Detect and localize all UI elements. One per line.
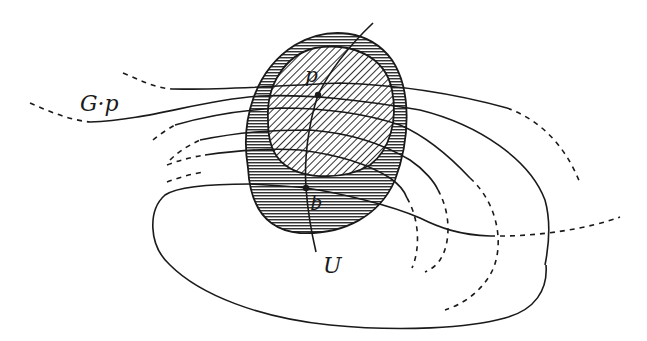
dash-orbit-1-left (123, 73, 172, 89)
label-orbit-gp: G·p (80, 91, 119, 116)
dash-orbit-loop-left (167, 172, 205, 182)
orbit-diagram: G·p p q U (0, 0, 647, 341)
label-q: q (310, 194, 323, 218)
dash-orbit-4-right (425, 190, 448, 272)
dash-orbit-1-right (507, 108, 580, 183)
dash-orbit-3-right (445, 178, 498, 310)
dash-orbit-3-left (153, 125, 175, 140)
label-u: U (323, 253, 343, 278)
point-p (315, 92, 321, 98)
label-p: p (305, 63, 318, 87)
dash-orbit-4-left (170, 140, 200, 160)
inner-neighborhood (268, 47, 394, 177)
dash-orbit-5-right (407, 198, 417, 268)
point-q (303, 185, 309, 191)
dash-orbit-q-right (490, 217, 620, 236)
